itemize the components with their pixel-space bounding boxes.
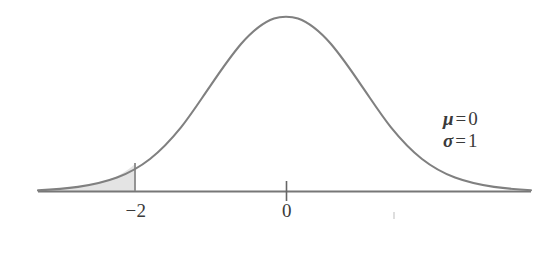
normal-distribution-figure: −2 0 μ=0 σ=1 [0,0,546,253]
mu-equals-sign: = [454,108,469,129]
parameter-annotations: μ=0 σ=1 [443,108,478,152]
mu-symbol: μ [443,108,454,129]
mu-value: 0 [468,108,478,129]
axis-label-zero: 0 [282,200,292,222]
sigma-symbol: σ [443,130,453,151]
shaded-tail-region [38,164,135,191]
annotation-mu: μ=0 [443,108,478,130]
annotation-sigma: σ=1 [443,130,478,152]
sigma-equals-sign: = [453,130,468,151]
scan-artifact-speck [393,212,395,219]
sigma-value: 1 [468,130,478,151]
normal-curve [38,17,531,191]
axis-label-neg-two: −2 [125,200,146,222]
